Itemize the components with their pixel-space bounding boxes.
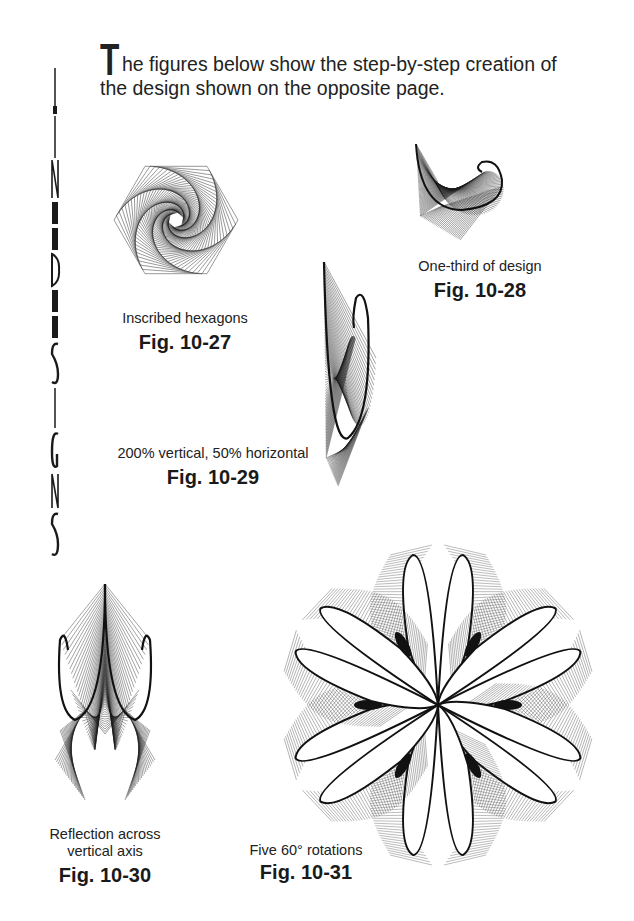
drop-cap: T	[100, 44, 114, 76]
figure-caption: Five 60° rotations	[236, 842, 376, 859]
intro-text: he figures below show the step-by-step c…	[100, 44, 570, 100]
figure-caption: 200% vertical, 50% horizontal	[108, 445, 318, 462]
vertical-title-lettering	[44, 68, 68, 568]
figure-caption-block-10-27: Inscribed hexagons Fig. 10-27	[100, 310, 270, 354]
figure-label: Fig. 10-29	[108, 466, 318, 489]
figure-caption-block-10-30: Reflection across vertical axis Fig. 10-…	[30, 826, 180, 887]
figure-label: Fig. 10-27	[100, 331, 270, 354]
figure-caption: One-third of design	[395, 258, 565, 275]
figure-caption-block-10-29: 200% vertical, 50% horizontal Fig. 10-29	[108, 445, 318, 489]
figure-caption-block-10-31: Five 60° rotations Fig. 10-31	[236, 842, 376, 884]
figure-label: Fig. 10-28	[395, 279, 565, 302]
figure-inscribed-hexagons	[115, 150, 237, 290]
intro-paragraph: The figures below show the step-by-step …	[100, 44, 570, 100]
figure-caption-line-2: vertical axis	[30, 843, 180, 860]
figure-caption-line-1: Reflection across	[30, 826, 180, 843]
vertical-section-title	[44, 68, 68, 568]
figure-label: Fig. 10-30	[30, 864, 180, 887]
figure-label: Fig. 10-31	[236, 861, 376, 884]
figure-caption-block-10-28: One-third of design Fig. 10-28	[395, 258, 565, 302]
figure-caption: Inscribed hexagons	[100, 310, 270, 327]
figure-rotation-design	[273, 530, 603, 880]
figure-reflection-design	[40, 580, 170, 810]
figure-stretched-design	[318, 258, 378, 488]
figure-one-third-design	[412, 140, 522, 245]
